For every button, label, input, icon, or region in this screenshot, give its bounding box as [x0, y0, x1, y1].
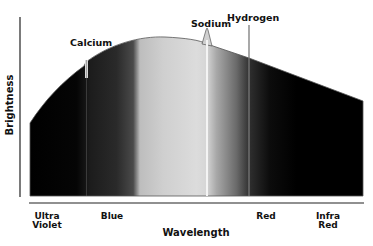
x-axis-label: Wavelength — [162, 227, 229, 238]
tick-infra-red-2: Red — [318, 220, 337, 230]
spectrum-area — [30, 37, 363, 196]
y-axis-label: Brightness — [4, 75, 15, 136]
spectrum-diagram: Calcium Sodium Hydrogen Brightness Ultra… — [0, 0, 373, 246]
hydrogen-label: Hydrogen — [227, 12, 279, 23]
tick-red: Red — [256, 211, 275, 221]
tick-ultra-violet-2: Violet — [32, 220, 62, 230]
sodium-label: Sodium — [191, 18, 231, 29]
calcium-label: Calcium — [70, 37, 112, 48]
tick-blue: Blue — [101, 211, 123, 221]
